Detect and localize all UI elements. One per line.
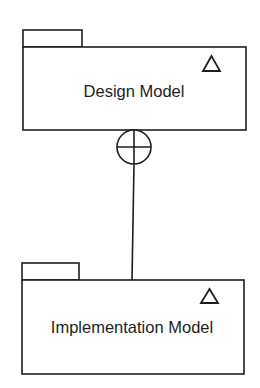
connector-line xyxy=(132,164,134,280)
package-name: Design Model xyxy=(84,82,185,100)
package-tab xyxy=(23,30,82,47)
package-name: Implementation Model xyxy=(51,318,213,336)
containment-relationship[interactable] xyxy=(117,130,151,280)
package-tab xyxy=(22,263,79,280)
package-implementation-model[interactable]: Implementation Model xyxy=(22,263,244,374)
package-design-model[interactable]: Design Model xyxy=(23,30,246,130)
package-diagram: Design Model Implementation Model xyxy=(0,0,260,388)
